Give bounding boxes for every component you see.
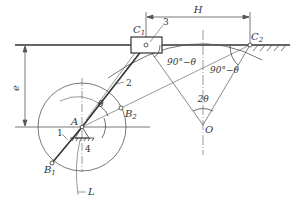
l-curve (76, 140, 80, 195)
slider-number: 3 (163, 17, 169, 27)
b1-label: B1 (43, 164, 56, 177)
c1-label: C1 (133, 24, 145, 37)
e-label: e (10, 85, 21, 91)
ground-hatching (253, 45, 286, 51)
o-label: O (205, 124, 213, 135)
two-theta-label: 2θ (196, 94, 209, 104)
crank-number: 1 (57, 128, 63, 138)
a-label: A (70, 116, 78, 127)
frame-number: 4 (85, 144, 91, 154)
l-label: L (87, 186, 95, 197)
angle-c1-label: 90°−θ (167, 57, 196, 67)
a-c2-line (82, 45, 250, 127)
theta-label: θ (98, 99, 104, 109)
o-c2-line (203, 45, 250, 125)
a-pivot (80, 125, 84, 129)
c2-pivot (248, 43, 252, 47)
angle-c2-label: 90°−θ (210, 65, 239, 75)
coupler-number: 2 (126, 78, 132, 88)
b2-label: B2 (124, 108, 137, 121)
b2-pivot (119, 106, 123, 110)
omega-arc (102, 118, 106, 138)
h-label: H (193, 4, 203, 15)
c2-label: C2 (251, 31, 264, 44)
crank-leader (62, 134, 68, 140)
mechanism-diagram: e H (0, 0, 308, 206)
c1-pivot (144, 43, 148, 47)
rotation-arc (60, 97, 103, 106)
